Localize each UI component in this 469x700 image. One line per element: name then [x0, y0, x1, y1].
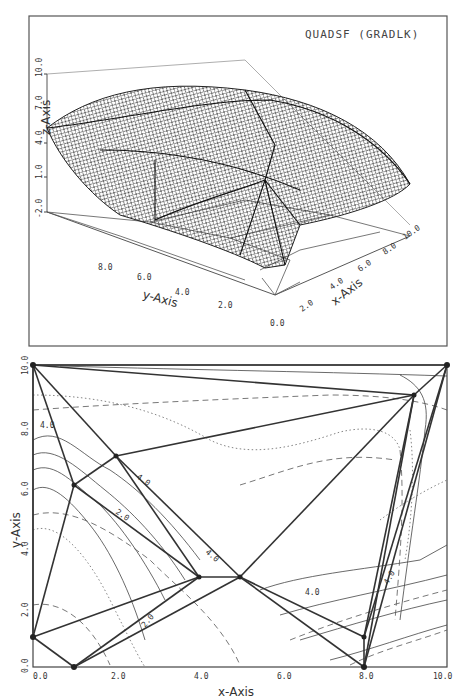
- svg-text:6.0: 6.0: [277, 672, 292, 681]
- svg-text:2.0: 2.0: [218, 301, 233, 310]
- svg-text:8.0: 8.0: [21, 421, 30, 436]
- svg-text:8.0: 8.0: [98, 263, 113, 272]
- svg-text:4.0: 4.0: [204, 548, 221, 564]
- svg-text:10.0: 10.0: [401, 223, 422, 242]
- mesh-surface: [47, 86, 410, 268]
- figure: QUADSF (GRADLK) 10.0 7.0 4.0 1.0 -2.0 z-…: [0, 0, 469, 700]
- back-edge: [47, 60, 245, 74]
- svg-text:10.0: 10.0: [433, 672, 452, 681]
- triangulation-nodes: [30, 362, 450, 670]
- svg-text:6.0: 6.0: [356, 258, 373, 274]
- svg-text:10.0: 10.0: [35, 58, 44, 77]
- svg-text:-2.0: -2.0: [35, 199, 44, 218]
- svg-text:4.0: 4.0: [194, 672, 209, 681]
- x-ticks: 0.0 2.0 4.0 6.0 8.0 10.0: [33, 672, 452, 681]
- svg-text:6.0: 6.0: [137, 273, 152, 282]
- y-axis-label-3d: y-Axis: [141, 287, 179, 310]
- plot-frame-contour: [33, 365, 447, 667]
- x-axis-label: x-Axis: [218, 685, 254, 699]
- svg-text:2.0: 2.0: [140, 612, 156, 629]
- svg-text:4.0: 4.0: [135, 472, 152, 488]
- svg-text:4.0: 4.0: [40, 421, 55, 430]
- svg-text:0.0: 0.0: [33, 672, 48, 681]
- triangulation-edges: [33, 365, 447, 667]
- z-ticks: 10.0 7.0 4.0 1.0 -2.0: [35, 58, 47, 218]
- plot-title: QUADSF (GRADLK): [305, 28, 419, 41]
- svg-text:6.0: 6.0: [21, 481, 30, 496]
- svg-text:0.0: 0.0: [21, 658, 30, 673]
- svg-text:4.0: 4.0: [305, 588, 320, 597]
- contour-lines: [33, 366, 447, 660]
- contour-plot: 4.0 4.0 2.0 4.0 2.0 4.0 4.0 10.0 8.0 6.0…: [9, 356, 452, 699]
- svg-text:1.0: 1.0: [35, 164, 44, 179]
- svg-text:2.0: 2.0: [21, 602, 30, 617]
- y-axis-label: y-Axis: [9, 512, 23, 548]
- surface-plot-3d: QUADSF (GRADLK) 10.0 7.0 4.0 1.0 -2.0 z-…: [29, 16, 447, 346]
- svg-text:10.0: 10.0: [21, 356, 30, 375]
- origin-label: 0.0: [270, 319, 285, 328]
- svg-text:2.0: 2.0: [111, 672, 126, 681]
- svg-text:8.0: 8.0: [359, 672, 374, 681]
- svg-text:2.0: 2.0: [298, 298, 315, 314]
- contour-lines-dashed: [33, 395, 447, 665]
- svg-text:8.0: 8.0: [381, 241, 398, 257]
- contour-labels: 4.0 4.0 2.0 4.0 2.0 4.0 4.0: [40, 421, 397, 629]
